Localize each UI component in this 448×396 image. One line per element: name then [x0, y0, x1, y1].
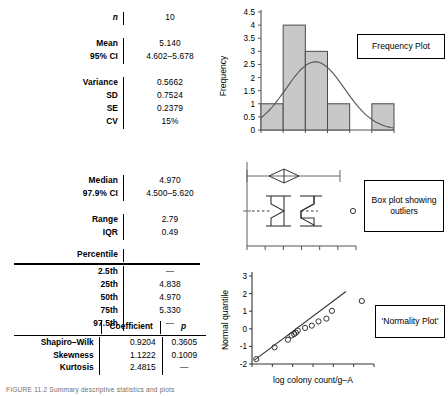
stat-value-variance: 0.5662 [124, 77, 214, 87]
normality-plot-ylabel: Normal quantile [220, 290, 230, 350]
stat-row-979ci: 97.9% CI 4.500–5.620 [0, 188, 214, 201]
box-plot-tag-label: Box plot showing outliers [369, 195, 439, 217]
normality-plot-tag-label: 'Normality Plot' [382, 316, 439, 327]
stat-value-median: 4.970 [124, 175, 214, 185]
scatter-point [329, 308, 334, 313]
frequency-plot-tag: Frequency Plot [357, 34, 445, 59]
stat-value-mean: 5.140 [124, 38, 214, 48]
stat-label-se: SE [0, 103, 123, 113]
stat-label-iqr: IQR [0, 227, 123, 237]
ytick-label: 1.5 [244, 87, 256, 96]
scatter-point [359, 298, 364, 303]
percentile-row-50: 50th 4.970 [0, 292, 214, 305]
stat-value-range: 2.79 [124, 214, 214, 224]
frequency-plot-tag-label: Frequency Plot [372, 41, 430, 52]
percentile-value-25: 4.838 [124, 279, 214, 289]
table-row: Kurtosis 2.4815 — [14, 362, 206, 375]
percentile-label-50: 50th [0, 292, 123, 302]
ytick-label: 0.5 [244, 113, 256, 122]
scatter-point [309, 323, 314, 328]
frequency-plot-svg: Frequency 00.511.522.533.544.5 [214, 2, 448, 144]
scatter-point [302, 325, 307, 330]
ytick-label: 3.5 [244, 34, 256, 43]
p-value-skewness: 0.1009 [163, 350, 206, 360]
normality-plot-yticks: -2-10123 [240, 272, 252, 369]
coefficient-row-name-kurtosis: Kurtosis [14, 362, 99, 372]
stat-label-variance: Variance [0, 77, 123, 87]
coefficient-value-kurtosis: 2.4815 [100, 362, 162, 372]
scatter-point [316, 319, 321, 324]
stat-value-iqr: 0.49 [124, 227, 214, 237]
histogram-bar [328, 104, 350, 130]
coefficient-header-p: p [161, 321, 206, 331]
p-value-shapiro-wilk: 0.3605 [163, 337, 206, 347]
coefficient-row-name-skewness: Skewness [14, 350, 99, 360]
stat-row-sd: SD 0.7524 [0, 90, 214, 103]
stat-row-95ci: 95% CI 4.602–5.678 [0, 51, 214, 64]
stat-row-range: Range 2.79 [0, 214, 214, 227]
ytick-label: 0 [250, 126, 255, 135]
ytick-label: 2 [242, 290, 247, 299]
box-plot-box [243, 196, 322, 226]
stat-row-variance: Variance 0.5662 [0, 77, 214, 90]
frequency-plot-ylabel: Frequency [218, 55, 228, 96]
normality-plot-fit-line [254, 291, 346, 360]
stat-label-median: Median [0, 175, 123, 185]
ytick-label: 2.5 [244, 60, 256, 69]
percentile-row-75: 75th 5.330 [0, 305, 214, 318]
normality-plot-tag: 'Normality Plot' [375, 305, 445, 338]
ytick-label: 1 [250, 100, 255, 109]
histogram-bar [372, 104, 394, 130]
coefficient-value-shapiro-wilk: 0.9204 [100, 337, 162, 347]
box-plot-xticks [247, 246, 356, 250]
stat-label-95ci: 95% CI [0, 51, 123, 61]
scatter-point [324, 316, 329, 321]
ytick-label: -2 [240, 360, 248, 369]
ytick-label: 3 [242, 272, 247, 281]
percentile-label-2p5: 2.5th [0, 266, 123, 276]
percentile-value-2p5: — [124, 266, 214, 276]
percentile-header-label: Percentile [0, 249, 123, 260]
stat-label-cv: CV [0, 116, 123, 126]
normality-plot-points [254, 298, 365, 361]
p-value-kurtosis: — [163, 362, 206, 372]
coefficient-header-coefficient: Coefficient [102, 321, 160, 331]
coefficient-row-name-shapiro-wilk: Shapiro–Wilk [14, 337, 99, 347]
percentile-rule [14, 263, 200, 265]
stat-value-95ci: 4.602–5.678 [124, 51, 214, 61]
percentile-label-75: 75th [0, 305, 123, 315]
ytick-label: 3 [250, 47, 255, 56]
ytick-label: 4.5 [244, 8, 256, 17]
figure-caption: FIGURE 11.2 Summary descriptive statisti… [6, 386, 175, 393]
table-row: Shapiro–Wilk 0.9204 0.3605 [14, 337, 206, 350]
stat-row-iqr: IQR 0.49 [0, 227, 214, 240]
percentile-label-25: 25th [0, 279, 123, 289]
figure-page: n 10 Mean 5.140 95% CI 4.602–5.678 Varia… [0, 0, 448, 396]
ytick-label: 0 [242, 325, 247, 334]
stat-label-mean: Mean [0, 38, 123, 48]
coefficient-value-skewness: 1.1222 [100, 350, 162, 360]
percentile-row-2p5: 2.5th — [0, 266, 214, 279]
ytick-label: -1 [240, 342, 248, 351]
stat-label-979ci: 97.9% CI [0, 188, 123, 198]
stat-value-cv: 15% [124, 116, 214, 126]
percentile-row-25: 25th 4.838 [0, 279, 214, 292]
stat-value-n: 10 [124, 12, 214, 22]
stat-label-sd: SD [0, 90, 123, 100]
box-plot: Box plot showing outliers [214, 148, 448, 262]
box-plot-tag: Box plot showing outliers [364, 180, 444, 232]
ytick-label: 2 [250, 74, 255, 83]
stat-divider [123, 249, 124, 262]
stat-row-median: Median 4.970 [0, 175, 214, 188]
stat-row-cv: CV 15% [0, 116, 214, 129]
percentile-value-50: 4.970 [124, 292, 214, 302]
stat-row-se: SE 0.2379 [0, 103, 214, 116]
coefficient-table-rule [14, 335, 206, 337]
frequency-plot-yticks: 00.511.522.533.544.5 [244, 8, 261, 135]
stat-value-se: 0.2379 [124, 103, 214, 113]
normality-plot-xlabel: log colony count/g–A [273, 375, 353, 385]
stat-value-sd: 0.7524 [124, 90, 214, 100]
stat-row-n: n 10 [0, 12, 214, 25]
ytick-label: 1 [242, 307, 247, 316]
box-plot-mean-diamond-row [247, 169, 340, 183]
